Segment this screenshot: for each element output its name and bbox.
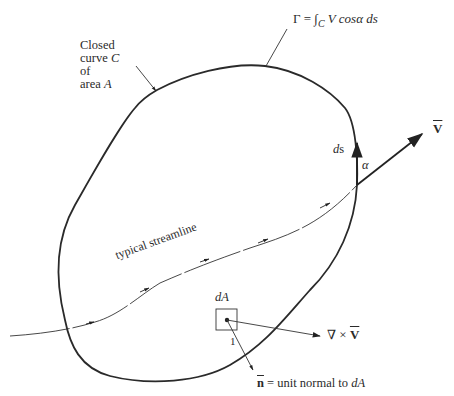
alpha-label: α xyxy=(362,158,369,172)
one-label: 1 xyxy=(230,334,236,348)
ds-label: ds xyxy=(333,142,344,156)
unit-normal-label: n = unit normal to dA xyxy=(257,376,365,390)
closed-curve-leader xyxy=(136,66,156,91)
closed-curve-c xyxy=(58,65,357,381)
gamma-leader xyxy=(266,29,287,66)
dA-label: dA xyxy=(215,290,229,304)
streamline-arrow-5 xyxy=(320,203,330,208)
typical-streamline xyxy=(10,185,357,336)
curl-vector xyxy=(227,320,320,336)
circulation-formula: Γ = ∫C V cosα ds xyxy=(293,12,378,31)
closed-curve-label: Closed curve C of area A xyxy=(80,39,119,91)
velocity-label: V xyxy=(433,122,442,136)
diagram-canvas xyxy=(0,0,454,396)
curl-label: ∇ × V xyxy=(327,328,359,342)
streamline-arrow-3 xyxy=(200,259,209,262)
